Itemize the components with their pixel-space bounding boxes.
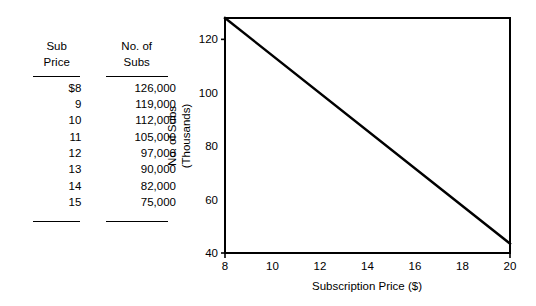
table-row: 1482,000 bbox=[22, 178, 182, 194]
x-tick-label: 18 bbox=[456, 260, 469, 272]
x-tick-label: 12 bbox=[314, 260, 327, 272]
footer-rule-subs bbox=[106, 221, 168, 222]
y-tick-label: 80 bbox=[205, 140, 218, 152]
x-tick-label: 16 bbox=[409, 260, 422, 272]
y-tick-label: 40 bbox=[205, 247, 218, 259]
cell-sub-price: 12 bbox=[22, 145, 91, 161]
cell-sub-price: 11 bbox=[22, 129, 91, 145]
y-tick-label: 100 bbox=[199, 87, 218, 99]
chart-svg: 406080100120 8101214161820 Subscription … bbox=[160, 0, 536, 306]
footer-rule-price bbox=[33, 221, 80, 222]
table-footer bbox=[22, 210, 182, 222]
y-axis-title-line1: No. of Subs bbox=[166, 106, 178, 166]
y-axis-title-line2: (Thousands) bbox=[180, 104, 192, 169]
column-header-sub-price: Sub Price bbox=[22, 38, 91, 73]
table-footer-rule-row bbox=[22, 210, 182, 222]
header-rule-price bbox=[33, 76, 80, 77]
table-header-rule-row bbox=[22, 73, 182, 80]
table-body: $8126,0009119,00010112,00011105,0001297,… bbox=[22, 80, 182, 211]
cell-sub-price: 13 bbox=[22, 161, 91, 177]
table-row: 9119,000 bbox=[22, 96, 182, 112]
table-row: 10112,000 bbox=[22, 112, 182, 128]
y-axis: 406080100120 bbox=[199, 33, 225, 259]
y-tick-label: 120 bbox=[199, 33, 218, 45]
table-row: 1390,000 bbox=[22, 161, 182, 177]
x-tick-label: 20 bbox=[504, 260, 517, 272]
header-rule-subs bbox=[106, 76, 168, 77]
header-rule-cell-price bbox=[22, 73, 91, 80]
x-tick-label: 14 bbox=[361, 260, 374, 272]
x-tick-label: 8 bbox=[222, 260, 228, 272]
x-axis-title: Subscription Price ($) bbox=[312, 280, 422, 292]
cell-sub-price: $8 bbox=[22, 80, 91, 96]
subscription-demand-table: Sub Price No. of Subs $8126,0009119,0001… bbox=[22, 38, 182, 222]
x-axis: 8101214161820 bbox=[222, 253, 517, 272]
demand-curve-chart: 406080100120 8101214161820 Subscription … bbox=[160, 0, 536, 306]
table-header-row: Sub Price No. of Subs bbox=[22, 38, 182, 73]
x-tick-label: 10 bbox=[266, 260, 279, 272]
footer-rule-cell-price bbox=[22, 210, 91, 222]
cell-sub-price: 9 bbox=[22, 96, 91, 112]
table-row: 1575,000 bbox=[22, 194, 182, 210]
table-header: Sub Price No. of Subs bbox=[22, 38, 182, 80]
table-row: 1297,000 bbox=[22, 145, 182, 161]
table: Sub Price No. of Subs $8126,0009119,0001… bbox=[22, 38, 182, 222]
cell-sub-price: 14 bbox=[22, 178, 91, 194]
column-header-sub-price-line2: Price bbox=[26, 54, 87, 70]
y-tick-label: 60 bbox=[205, 194, 218, 206]
cell-sub-price: 10 bbox=[22, 112, 91, 128]
column-header-sub-price-line1: Sub bbox=[26, 38, 87, 54]
demand-curve-line bbox=[225, 18, 510, 244]
cell-sub-price: 15 bbox=[22, 194, 91, 210]
table-row: 11105,000 bbox=[22, 129, 182, 145]
table-row: $8126,000 bbox=[22, 80, 182, 96]
